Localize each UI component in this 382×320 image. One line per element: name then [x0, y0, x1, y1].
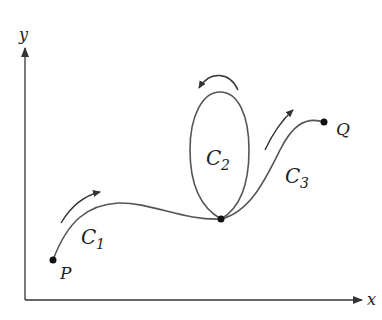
point-q-dot — [321, 119, 328, 126]
curve-c1-subscript: 1 — [96, 236, 105, 252]
y-axis-label: y — [18, 25, 29, 44]
curve-c2-name: C — [206, 146, 221, 170]
direction-arrow-c1 — [61, 192, 100, 223]
point-q-label: Q — [336, 119, 350, 139]
x-axis-label: x — [367, 290, 376, 309]
curve-c1-name: C — [81, 225, 96, 249]
curve-label-c3: C 3 — [285, 164, 309, 191]
junction-dot — [218, 216, 225, 223]
point-p-label: P — [59, 263, 72, 283]
point-p-dot — [50, 257, 57, 264]
direction-arrow-c3 — [265, 110, 293, 150]
diagram-canvas: y x P Q C 1 C 2 C 3 — [0, 0, 382, 320]
curve-c2-subscript: 2 — [220, 157, 230, 173]
curve-c3-name: C — [285, 164, 300, 188]
direction-arrow-c2 — [199, 75, 238, 90]
curve-label-c2: C 2 — [206, 146, 230, 173]
curve-c1 — [53, 203, 221, 260]
curve-c3-subscript: 3 — [300, 175, 309, 191]
curve-label-c1: C 1 — [81, 225, 105, 252]
